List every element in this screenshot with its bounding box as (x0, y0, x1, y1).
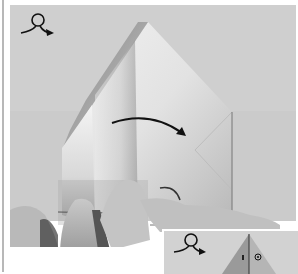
inset-photo (162, 229, 298, 274)
inset-turn-over-symbol-icon (174, 234, 206, 255)
folded-paper (58, 22, 232, 225)
crease-mark-icon (242, 255, 244, 260)
inset-paper (222, 234, 276, 274)
blank-area (10, 247, 162, 272)
turn-over-symbol-icon (21, 14, 54, 36)
